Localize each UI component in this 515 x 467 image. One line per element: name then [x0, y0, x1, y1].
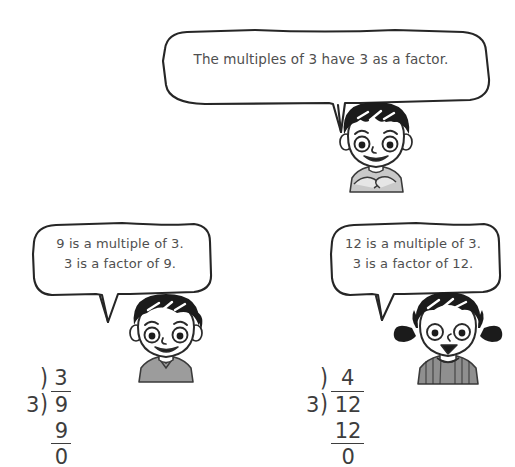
speech-bubble-top: The multiples of 3 have 3 as a factor. — [145, 27, 497, 105]
division-right-spacer-2: ) — [320, 366, 329, 390]
division-right-remainder: 0 — [331, 444, 365, 467]
division-left-spacer-2: ) — [40, 366, 49, 390]
division-right-quotient: 4 — [331, 366, 365, 391]
division-left-quotient: 3 — [51, 366, 71, 391]
division-right-spacer-3 — [306, 420, 320, 444]
division-right-spacer-1 — [306, 367, 320, 391]
division-right-spacer-5 — [306, 445, 320, 467]
division-left-spacer-4 — [40, 420, 50, 444]
speech-bubble-top-text: The multiples of 3 have 3 as a factor. — [145, 49, 497, 69]
division-right-subtrahend: 12 — [331, 418, 365, 444]
division-left-subtrahend: 9 — [51, 418, 71, 444]
division-left-spacer-6 — [40, 445, 50, 467]
division-right-spacer-4 — [320, 420, 330, 444]
long-division-right: ) 4 3 ) 12 12 0 — [306, 366, 364, 467]
division-left-spacer-1 — [26, 367, 40, 391]
character-boy-spiky-hair — [324, 100, 428, 192]
division-right-spacer-6 — [320, 445, 330, 467]
character-boy-dark-hair — [117, 292, 215, 382]
speech-bubble-top-outline — [145, 27, 497, 139]
long-division-left: ) 3 3 ) 9 9 0 — [26, 366, 71, 467]
character-girl-pigtails — [392, 288, 504, 384]
division-left-remainder: 0 — [51, 444, 71, 467]
division-bracket-icon: ) — [320, 392, 329, 416]
speech-bubble-right-text: 12 is a multiple of 3. 3 is a factor of … — [320, 234, 506, 274]
division-left-dividend: 9 — [51, 391, 71, 417]
division-right-dividend: 12 — [331, 391, 365, 417]
division-left-spacer-5 — [26, 445, 40, 467]
division-left-spacer-3 — [26, 420, 40, 444]
division-right-divisor: 3 — [306, 393, 320, 417]
division-bracket-icon: ) — [40, 392, 49, 416]
speech-bubble-left-text: 9 is a multiple of 3. 3 is a factor of 9… — [22, 234, 218, 274]
illustration-canvas: The multiples of 3 have 3 as a factor. — [0, 0, 515, 467]
division-left-divisor: 3 — [26, 393, 40, 417]
